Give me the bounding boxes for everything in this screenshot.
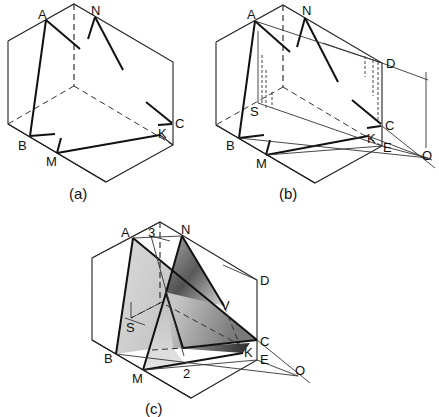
label-a-point-C: C [175,116,184,131]
label-b-point-S: S [250,104,259,119]
label-c-point-B: B [104,351,113,366]
label-c-point-E: E [260,352,269,367]
label-b-point-N: N [302,3,311,18]
construction-lines-b [239,18,435,168]
label-b-point-K: K [367,131,376,146]
label-b-point-M: M [256,156,267,171]
label-a-point-N: N [91,3,100,18]
label-c-point-3: 3 [148,225,155,240]
label-c-point-M: M [132,371,143,386]
construction-lines-a [30,17,172,153]
label-c-point-D: D [260,273,269,288]
cube-outline-b [216,5,382,183]
panel-c: A 3 N D V S C K E B M 2 O (c) [92,222,310,417]
label-c-point-S: S [126,320,135,335]
caption-b: (b) [279,185,297,202]
caption-c: (c) [145,400,163,417]
label-a-point-K: K [158,126,167,141]
label-b-point-O: O [422,148,432,163]
label-c-point-O: O [295,363,305,378]
label-b-point-E: E [383,140,392,155]
label-c-point-2: 2 [183,366,190,381]
label-c-point-N: N [181,222,190,237]
panel-a: A N B M K C (a) [8,3,184,202]
label-b-point-C: C [385,118,394,133]
geometry-figure: A N B M K C (a) [0,0,439,417]
label-c-point-K: K [244,345,253,360]
shaded-planes-c [116,236,257,370]
label-b-point-D: D [386,56,395,71]
label-b-point-B: B [226,138,235,153]
label-c-point-V: V [221,298,230,313]
label-c-point-A: A [121,225,130,240]
label-a-point-B: B [18,138,27,153]
label-c-point-C: C [260,334,269,349]
label-a-point-M: M [46,154,57,169]
label-a-point-A: A [38,7,47,22]
label-b-point-A: A [247,7,256,22]
caption-a: (a) [69,185,87,202]
panel-b: A N D S C K E B M O (b) [216,3,435,202]
